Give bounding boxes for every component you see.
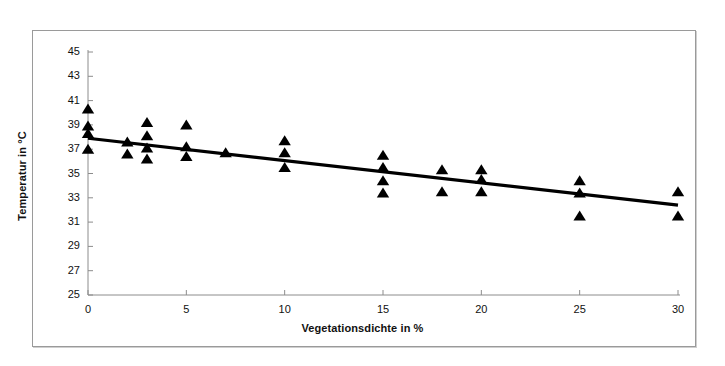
data-point-marker: [141, 117, 153, 127]
data-point-marker: [121, 149, 133, 159]
data-point-marker: [573, 175, 585, 185]
chart-figure: Vegetationsdichte in % Temperatur in °C …: [0, 0, 725, 366]
data-point-marker: [141, 153, 153, 163]
data-point-marker: [436, 164, 448, 174]
plot-svg: [0, 0, 725, 366]
data-point-marker: [180, 141, 192, 151]
plot-area: Vegetationsdichte in % Temperatur in °C …: [0, 0, 725, 366]
data-point-marker: [377, 187, 389, 197]
tick-marks: [88, 52, 678, 295]
data-markers: [82, 104, 684, 221]
data-point-marker: [180, 151, 192, 161]
data-point-marker: [573, 211, 585, 221]
data-point-marker: [180, 119, 192, 129]
data-point-marker: [278, 147, 290, 157]
data-point-marker: [141, 130, 153, 140]
data-point-marker: [475, 164, 487, 174]
data-point-marker: [82, 104, 94, 114]
data-point-marker: [278, 162, 290, 172]
data-point-marker: [377, 175, 389, 185]
data-point-marker: [475, 174, 487, 184]
data-point-marker: [377, 162, 389, 172]
data-point-marker: [672, 211, 684, 221]
data-point-marker: [436, 186, 448, 196]
data-point-marker: [278, 135, 290, 145]
data-point-marker: [475, 186, 487, 196]
data-point-marker: [672, 186, 684, 196]
data-point-marker: [377, 150, 389, 160]
